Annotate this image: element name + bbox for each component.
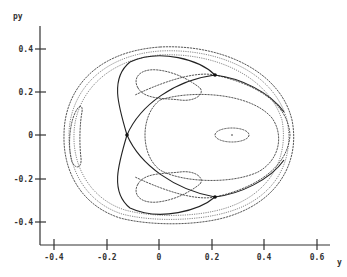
hyperbolic-point (125, 133, 129, 137)
poincare-plot: 0.4 0.2 0 -0.2 -0.4 -0.4 -0.2 0 0.2 0.4 … (0, 0, 347, 277)
y-tick-label: -0.2 (14, 175, 33, 184)
x-tick-label: 0.2 (205, 253, 220, 262)
x-tick-label: 0 (157, 253, 162, 262)
x-tick-label: -0.2 (97, 253, 116, 262)
hyperbolic-point (213, 73, 217, 77)
upper-island (136, 70, 201, 101)
y-tick-label: -0.4 (14, 218, 33, 227)
x-ticks: -0.4 -0.2 0 0.2 0.4 0.6 (44, 239, 324, 262)
central-elliptic-point (231, 134, 233, 136)
y-tick-label: 0.4 (19, 45, 34, 54)
y-axis-label: py (13, 12, 23, 21)
outer-boundary-orbits (64, 47, 294, 224)
y-ticks: 0.4 0.2 0 -0.2 -0.4 (14, 45, 46, 227)
lower-island (136, 172, 201, 203)
hyperbolic-point (213, 195, 217, 199)
x-axis-label: y (337, 258, 342, 267)
x-tick-label: 0.4 (257, 253, 272, 262)
separatrix (118, 56, 290, 214)
x-tick-label: 0.6 (310, 253, 325, 262)
y-tick-label: 0 (28, 131, 33, 140)
x-tick-label: -0.4 (44, 253, 63, 262)
y-tick-label: 0.2 (19, 88, 34, 97)
